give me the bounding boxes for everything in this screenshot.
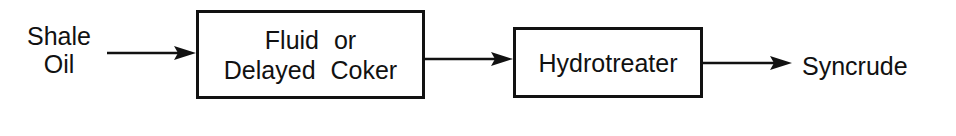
arrow-hydrotreater-to-syncrude — [703, 56, 792, 70]
arrow-input-to-coker — [107, 46, 196, 60]
flow-arrows — [0, 0, 956, 136]
arrow-coker-to-hydrotreater — [425, 52, 513, 66]
